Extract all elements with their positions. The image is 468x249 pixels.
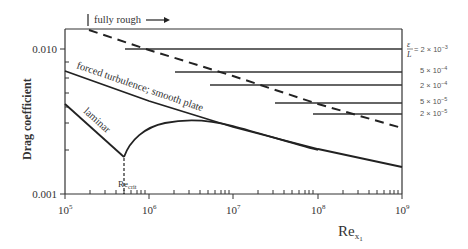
svg-text:2 × 10−5: 2 × 10−5 <box>420 108 447 118</box>
x-axis-label: Rex1 <box>338 223 363 243</box>
x-tick-labels: 105 106 107 108 109 <box>58 203 410 216</box>
y-tick-0.001: 0.001 <box>32 188 57 200</box>
transition-curve <box>124 121 318 157</box>
svg-text:108: 108 <box>311 203 326 216</box>
arrow-right-icon <box>146 17 170 23</box>
svg-text:= 2 × 10−3: = 2 × 10−3 <box>414 44 448 54</box>
svg-text:106: 106 <box>142 203 157 216</box>
svg-text:107: 107 <box>226 203 241 216</box>
svg-text:5 × 10−5: 5 × 10−5 <box>420 96 447 106</box>
y-axis-label: Drag coefficient <box>20 78 34 160</box>
re-crit-label: Recrit <box>118 179 137 190</box>
drag-coefficient-chart: fully rough forced turbulence; smooth pl… <box>0 0 468 249</box>
svg-text:L: L <box>406 50 412 59</box>
forced-turbulence-label: forced turbulence; smooth plate <box>75 59 205 113</box>
laminar-label: laminar <box>82 105 114 135</box>
svg-text:ε: ε <box>407 40 411 49</box>
svg-text:5 × 10−4: 5 × 10−4 <box>420 65 447 75</box>
svg-text:109: 109 <box>395 203 410 216</box>
svg-text:105: 105 <box>58 203 73 216</box>
svg-text:2 × 10−4: 2 × 10−4 <box>420 80 447 90</box>
roughness-legend: ε L = 2 × 10−3 5 × 10−4 2 × 10−4 5 × 10−… <box>406 40 448 118</box>
y-tick-0.010: 0.010 <box>32 43 57 55</box>
plot-frame <box>65 29 402 194</box>
fully-rough-label: fully rough <box>94 14 142 25</box>
roughness-lines <box>125 49 402 114</box>
